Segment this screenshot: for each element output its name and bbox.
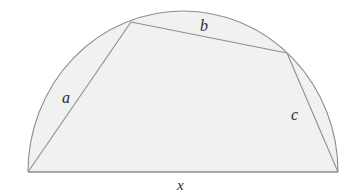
semicircle-quadrilateral-drawing	[0, 0, 354, 196]
side-b-label: b	[200, 18, 208, 34]
side-c-label: c	[291, 107, 298, 123]
diameter-x-label: x	[177, 178, 184, 193]
side-a-label: a	[62, 90, 70, 106]
geometry-figure: a b c x	[0, 0, 354, 196]
